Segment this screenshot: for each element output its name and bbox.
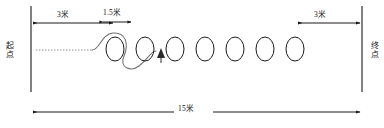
end-point-label: 终点: [370, 41, 380, 59]
cone-marker: [136, 37, 154, 61]
cone-marker: [256, 37, 274, 61]
cone-marker: [286, 37, 304, 61]
cone-marker: [226, 37, 244, 61]
dimension-label-start-to-first-cone: 3米: [57, 11, 68, 19]
cone-marker: [166, 37, 184, 61]
cone-row: [106, 37, 304, 61]
start-point-label: 起点: [5, 41, 15, 59]
dimension-label-last-cone-to-finish: 3米: [314, 11, 325, 19]
dimension-label-cone-spacing: 1.5米: [103, 9, 120, 17]
cone-marker: [196, 37, 214, 61]
course-diagram: 3米 1.5米 3米 15米 起点 终点: [0, 0, 384, 128]
cone-marker: [106, 37, 124, 61]
route-direction-arrow-icon: [157, 48, 165, 58]
dimension-label-total-length: 15米: [178, 105, 193, 113]
